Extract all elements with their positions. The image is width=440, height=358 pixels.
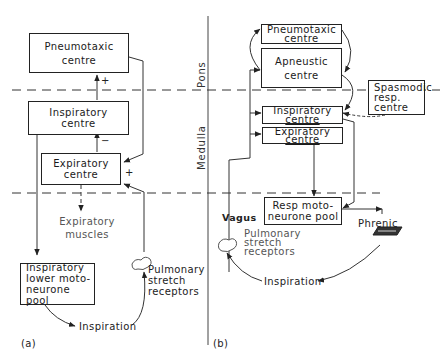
- medulla-region-label: Medulla: [196, 125, 207, 170]
- box-label: centre: [61, 118, 95, 129]
- box-label: centre: [285, 115, 319, 124]
- inspiratory-centre-box-b: Inspiratory centre: [262, 106, 343, 124]
- box-label: centre: [284, 70, 318, 81]
- inspiration-label-b: Inspiration: [264, 276, 321, 287]
- expiratory-centre-box-b: Expiratory centre: [262, 127, 343, 144]
- expiratory-centre-box-a: Expiratory centre: [41, 153, 121, 185]
- box-label: Inspiratory: [26, 262, 84, 273]
- vagus-label: Vagus: [222, 212, 256, 223]
- pulmonary-stretch-receptors-label-b: Pulmonary stretch receptors: [244, 229, 301, 256]
- box-label: centre: [285, 136, 319, 144]
- apneustic-centre-box: Apneustic centre: [261, 48, 342, 88]
- phrenic-label: Phrenic: [358, 218, 398, 229]
- box-label: centre: [62, 55, 96, 66]
- inspiration-label-a: Inspiration: [79, 321, 136, 332]
- spasmodic-resp-centre-box: Spasmodic resp. centre: [368, 80, 425, 115]
- pons-region-label: Pons: [196, 61, 207, 88]
- pulmonary-stretch-receptors-label-a: Pulmonary stretch receptors: [148, 264, 205, 297]
- box-label: Expiratory: [53, 158, 109, 169]
- panel-b-label: (b): [213, 338, 228, 349]
- excitatory-sign: +: [101, 75, 109, 86]
- box-label: neurone pool: [268, 211, 339, 222]
- box-label: centre: [374, 103, 408, 113]
- box-label: Resp moto-: [272, 200, 333, 211]
- expiratory-muscles-label: Expiratory muscles: [57, 216, 117, 240]
- box-label: lower moto-: [26, 273, 91, 284]
- box-label: Spasmodic: [374, 83, 432, 93]
- inhibitory-sign: −: [101, 135, 109, 146]
- inspiratory-centre-box-a: Inspiratory centre: [28, 101, 129, 135]
- resp-motoneurone-pool-box: Resp moto- neurone pool: [264, 197, 342, 225]
- pneumotaxic-centre-box-a: Pneumotaxic centre: [29, 33, 129, 73]
- panel-a-label: (a): [21, 338, 36, 349]
- box-label: resp.: [374, 93, 401, 103]
- box-label: Inspiratory: [49, 107, 107, 118]
- box-label: neurone pool: [26, 284, 94, 306]
- excitatory-sign: +: [125, 167, 133, 178]
- box-label: Pneumotaxic: [44, 41, 113, 52]
- box-label: centre: [64, 169, 98, 180]
- inspiratory-lower-motoneurone-box: Inspiratory lower moto- neurone pool: [20, 263, 95, 305]
- box-label: Apneustic: [275, 56, 328, 67]
- pneumotaxic-centre-box-b: Pneumotaxic centre: [261, 24, 342, 44]
- box-label: centre: [284, 34, 318, 43]
